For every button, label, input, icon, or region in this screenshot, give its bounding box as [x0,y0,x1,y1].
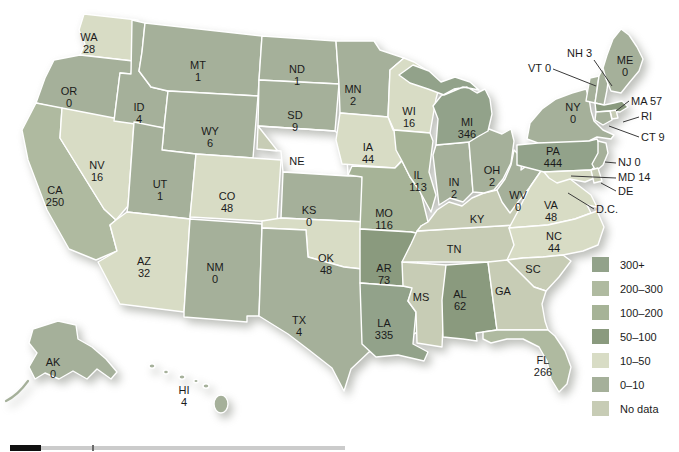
state-label-MO: MO116 [375,207,393,231]
state-label-AZ: AZ32 [137,255,151,279]
state-label-NV: NV16 [89,159,105,183]
legend-label: 0–10 [620,379,644,391]
legend-swatch-300plus [592,257,609,272]
state-label-KY: KY [470,213,485,225]
state-FL [483,330,571,392]
legend-label: 50–100 [620,331,657,343]
state-label-WI: WI16 [402,105,415,129]
callout-label-MD: MD 14 [618,171,650,183]
us-choropleth-figure: WA28OR0CA250NV16ID4MT1WY6UT1CO48AZ32NM0N… [0,0,679,452]
legend-label: No data [620,403,659,415]
callout-label-NH: NH 3 [567,47,592,59]
legend-swatch-no-data [592,401,609,416]
alaska-aleutians [6,381,28,401]
legend-swatch-10-50 [592,353,609,368]
state-AK [29,321,117,379]
state-AL [442,262,497,341]
legend-row: 100–200 [592,305,663,320]
state-label-IA: IA44 [362,141,374,165]
callout-label-NJ: NJ 0 [618,156,641,168]
callout-line-DE [601,183,616,191]
state-label-AR: AR73 [376,262,391,286]
state-label-NC: NC44 [546,230,562,254]
callout-label-DC: D.C. [596,203,618,215]
state-label-OK: OK48 [318,252,335,276]
callout-label-VT: VT 0 [528,62,551,74]
legend-swatch-100-200 [592,305,609,320]
callout-label-CT: CT 9 [641,131,665,143]
state-label-VA: VA48 [544,199,559,223]
callout-label-DE: DE [618,185,633,197]
state-CT [595,111,612,125]
state-label-LA: LA335 [375,317,393,341]
state-label-CA: CA250 [46,184,64,208]
state-label-MS: MS [413,291,430,303]
legend-row: 10–50 [592,353,663,368]
state-label-TN: TN [447,243,462,255]
legend-label: 200–300 [620,283,663,295]
legend-swatch-200-300 [592,281,609,296]
legend-row: No data [592,401,663,416]
legend-label: 100–200 [620,307,663,319]
state-label-HI: HI4 [179,384,190,408]
legend-swatch-50-100 [592,329,609,344]
legend-swatch-0-10 [592,377,609,392]
state-SD [258,80,339,131]
legend: 300+ 200–300 100–200 50–100 10–50 0–10 N… [592,257,663,425]
legend-row: 50–100 [592,329,663,344]
legend-row: 300+ [592,257,663,272]
callout-line-NJ [605,162,616,163]
state-DE [591,168,602,183]
legend-row: 200–300 [592,281,663,296]
state-CO [190,154,281,222]
bottom-scale-bar-gray [41,446,345,450]
state-label-GA: GA [495,285,512,297]
state-label-AL: AL62 [453,288,466,312]
bottom-scale-bar-black [10,445,41,451]
state-label-SC: SC [525,263,540,275]
callout-label-MA: MA 57 [631,95,662,107]
legend-label: 10–50 [620,355,651,367]
state-label-NE: NE [289,155,304,167]
state-KS [281,172,366,222]
state-label-PA: PA444 [544,145,562,169]
callout-label-RI: RI [641,110,652,122]
legend-row: 0–10 [592,377,663,392]
legend-label: 300+ [620,259,645,271]
bottom-scale-bar-tick [92,445,94,451]
us-map: WA28OR0CA250NV16ID4MT1WY6UT1CO48AZ32NM0N… [0,0,679,452]
callout-line-RI [623,117,639,122]
